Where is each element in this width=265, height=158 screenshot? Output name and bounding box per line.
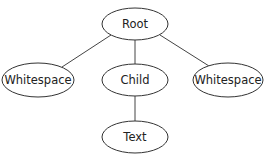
edge-root-whitespace-left [62,35,111,67]
node-whitespace-left: Whitespace [2,63,74,97]
tree-diagram: Root Whitespace Child Whitespace Text [0,0,265,158]
node-text-label: Text [122,130,147,144]
node-whitespace-left-label: Whitespace [4,73,71,87]
node-root-label: Root [122,17,149,31]
node-child-label: Child [120,73,149,87]
edge-root-whitespace-right [160,35,209,66]
node-root: Root [102,8,168,40]
node-whitespace-right: Whitespace [193,63,263,97]
node-child: Child [102,64,168,96]
node-whitespace-right-label: Whitespace [194,73,261,87]
node-text: Text [102,121,168,153]
